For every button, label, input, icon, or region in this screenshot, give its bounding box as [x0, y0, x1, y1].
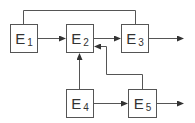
block-e5-letter: E: [134, 96, 144, 111]
block-e4-letter: E: [71, 96, 81, 111]
block-e2: E2: [66, 24, 94, 53]
block-e5-subscript: 5: [146, 103, 152, 113]
edge-e1-e3-bus: [24, 11, 136, 25]
block-e4-subscript: 4: [83, 103, 89, 113]
block-e3-subscript: 3: [138, 38, 144, 48]
connection-wires: [0, 0, 195, 123]
block-e1-letter: E: [15, 31, 25, 46]
block-e3: E3: [121, 24, 149, 53]
block-e1: E1: [10, 24, 38, 53]
block-e2-letter: E: [71, 31, 81, 46]
block-e4: E4: [66, 89, 94, 118]
block-e3-letter: E: [126, 31, 136, 46]
block-e2-subscript: 2: [83, 38, 89, 48]
block-e1-subscript: 1: [27, 38, 33, 48]
block-diagram: E1 E2 E3 E4 E5: [0, 0, 195, 123]
block-e5: E5: [128, 89, 157, 118]
